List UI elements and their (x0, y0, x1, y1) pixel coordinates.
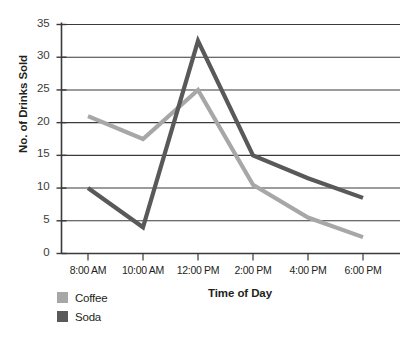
legend-label: Soda (75, 311, 101, 323)
legend-swatch-icon (57, 292, 68, 303)
y-tick-label: 15 (20, 147, 50, 159)
line-chart-figure: No. of Drinks Sold Time of Day 051015202… (0, 0, 406, 337)
chart-legend: CoffeeSoda (57, 288, 107, 326)
y-tick-label: 20 (20, 115, 50, 127)
y-tick-label: 0 (20, 246, 50, 258)
y-tick-label: 35 (20, 17, 50, 29)
legend-item: Coffee (57, 288, 107, 307)
plot-area (0, 0, 406, 290)
y-tick-label: 5 (20, 213, 50, 225)
legend-swatch-icon (57, 311, 68, 322)
legend-label: Coffee (75, 292, 107, 304)
x-tick-label: 6:00 PM (328, 264, 398, 276)
y-tick-label: 10 (20, 180, 50, 192)
legend-item: Soda (57, 307, 107, 326)
y-tick-label: 30 (20, 49, 50, 61)
y-tick-label: 25 (20, 82, 50, 94)
